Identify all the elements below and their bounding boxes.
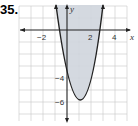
y-axis-label: y [69, 4, 74, 14]
x-tick-4: 4 [112, 33, 117, 42]
graph: −2 2 4 x y −4 −6 [0, 0, 138, 126]
y-tick-neg6: −6 [55, 98, 65, 107]
x-tick-neg2: −2 [37, 33, 47, 42]
figure: 35. −2 2 4 x y −4 −6 [0, 0, 138, 126]
x-axis-label: x [129, 32, 134, 42]
x-tick-2: 2 [88, 33, 93, 42]
y-tick-neg4: −4 [55, 74, 65, 83]
